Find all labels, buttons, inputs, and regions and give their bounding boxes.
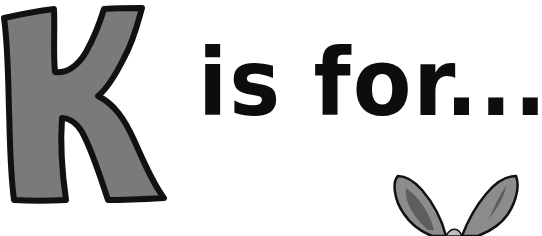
tagline-text: is for... xyxy=(198,38,542,130)
kangaroo-ears-icon xyxy=(388,168,522,236)
letter-k-shape xyxy=(4,8,164,201)
letter-k-graphic xyxy=(0,0,170,210)
